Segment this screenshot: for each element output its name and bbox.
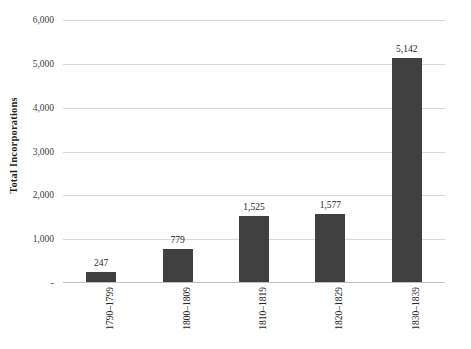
bar <box>392 58 422 283</box>
y-axis-tick-label: - <box>8 278 54 288</box>
y-axis-tick-label: 3,000 <box>8 147 54 157</box>
x-axis-tick-label: 1830–1839 <box>411 287 421 330</box>
bar-value-label: 779 <box>170 235 184 245</box>
y-axis-tick-label: 1,000 <box>8 234 54 244</box>
plot-area <box>63 20 445 283</box>
bar-value-label: 247 <box>94 258 108 268</box>
x-axis-tick-label: 1810–1819 <box>258 287 268 330</box>
x-axis-tick-label: 1790–1799 <box>105 287 115 330</box>
y-axis-tick-label: 2,000 <box>8 190 54 200</box>
y-axis-tick-label: 4,000 <box>8 103 54 113</box>
gridline <box>63 20 445 21</box>
bar-value-label: 5,142 <box>396 44 417 54</box>
x-axis-line <box>63 282 445 283</box>
y-axis-tick-label: 5,000 <box>8 59 54 69</box>
gridline <box>63 152 445 153</box>
bar-value-label: 1,577 <box>320 200 341 210</box>
x-axis-tick-label: 1800–1809 <box>182 287 192 330</box>
y-axis-title: Total Incorporations <box>0 0 26 290</box>
gridline <box>63 195 445 196</box>
gridline <box>63 108 445 109</box>
y-axis-tick-label: 6,000 <box>8 15 54 25</box>
bar-chart: Total Incorporations 6,0005,0004,0003,00… <box>0 0 471 349</box>
bar <box>239 216 269 283</box>
bar <box>163 249 193 283</box>
gridline <box>63 64 445 65</box>
bar-value-label: 1,525 <box>243 202 264 212</box>
bar <box>315 214 345 283</box>
x-axis-tick-label: 1820–1829 <box>334 287 344 330</box>
